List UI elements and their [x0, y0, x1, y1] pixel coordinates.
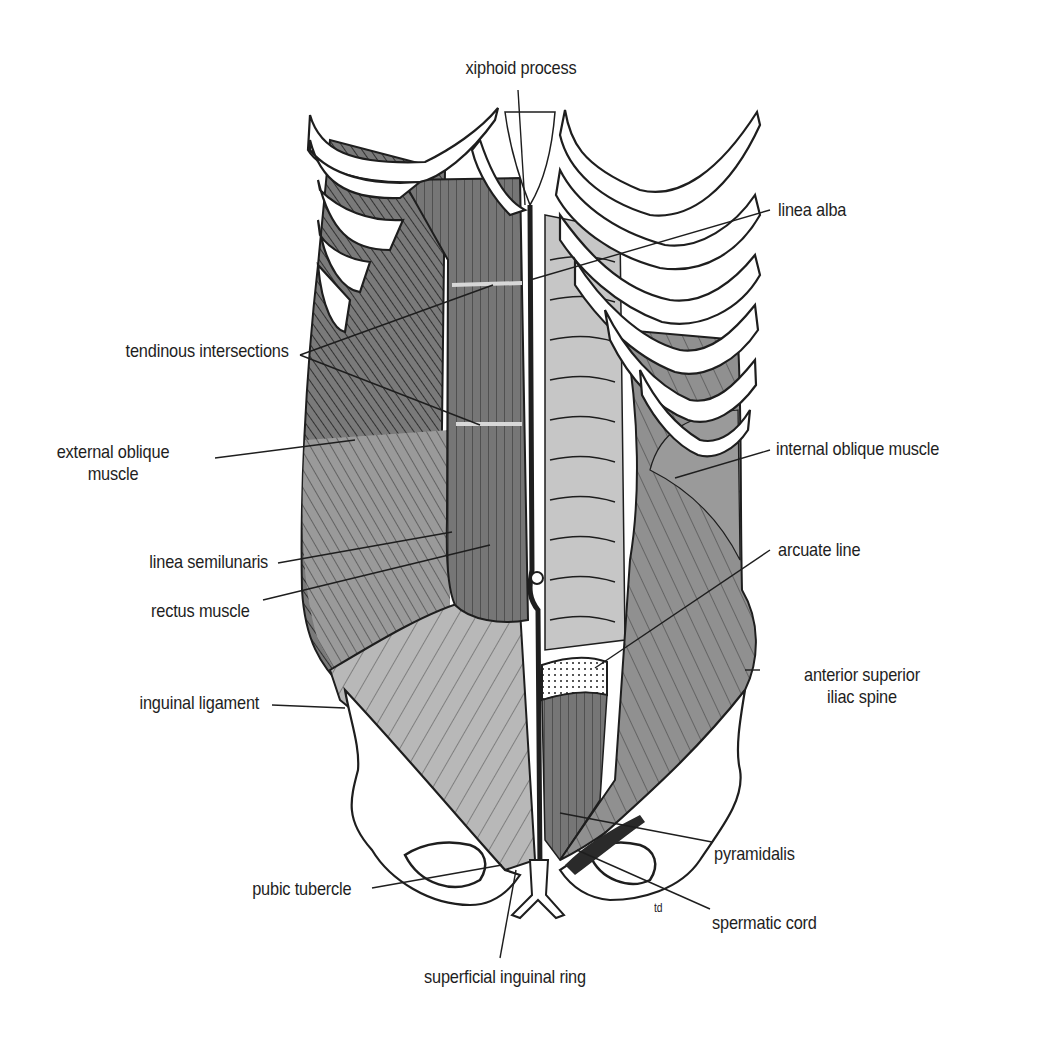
tendinous-intersection-1 — [452, 283, 522, 285]
label-anterior-superior-iliac-spine: anterior superior iliac spine — [785, 664, 940, 708]
label-linea-alba: linea alba — [778, 199, 846, 221]
linea-alba — [530, 205, 540, 870]
label-rectus-muscle: rectus muscle — [151, 600, 250, 622]
label-external-oblique-line2: muscle — [19, 463, 206, 485]
umbilicus — [531, 572, 543, 584]
anatomy-figure: td xiphoid process linea alba tendinous … — [0, 0, 1046, 1040]
label-external-oblique-line1: external oblique — [19, 441, 206, 463]
label-superficial-inguinal-ring: superficial inguinal ring — [380, 966, 629, 988]
label-external-oblique-muscle: external oblique muscle — [19, 441, 206, 485]
label-xiphoid-process: xiphoid process — [448, 57, 594, 79]
artist-signature: td — [654, 897, 662, 919]
label-pyramidalis: pyramidalis — [714, 843, 795, 865]
label-internal-oblique-muscle: internal oblique muscle — [776, 438, 939, 460]
label-asis-line1: anterior superior — [785, 664, 940, 686]
label-tendinous-intersections: tendinous intersections — [126, 340, 289, 362]
label-asis-line2: iliac spine — [785, 686, 940, 708]
label-inguinal-ligament: inguinal ligament — [139, 692, 259, 714]
pubic-symphysis — [512, 860, 564, 918]
label-spermatic-cord: spermatic cord — [712, 912, 817, 934]
label-pubic-tubercle: pubic tubercle — [252, 878, 351, 900]
label-linea-semilunaris: linea semilunaris — [149, 551, 268, 573]
abdominal-wall-illustration: td — [0, 0, 1046, 1040]
label-arcuate-line: arcuate line — [778, 539, 860, 561]
